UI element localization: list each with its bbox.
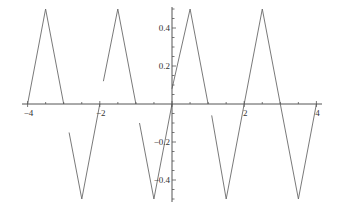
chart: −4−224 −0.4−0.20.20.4	[0, 0, 337, 211]
y-tick-label: −0.4	[154, 175, 171, 185]
y-tick-label: −0.2	[154, 137, 170, 147]
curve-segment	[28, 9, 64, 104]
y-tick-label: 0.2	[159, 61, 170, 71]
curve-segment	[69, 104, 100, 199]
curve-segment	[244, 9, 280, 104]
x-tick-label: −2	[96, 108, 106, 118]
x-tick-label: −4	[24, 108, 34, 118]
plot-area: −4−224 −0.4−0.20.20.4	[0, 0, 337, 211]
x-tick-label: 2	[243, 108, 248, 118]
curve-segment	[212, 104, 245, 199]
curve-segment	[103, 9, 135, 104]
y-tick-label: 0.4	[159, 23, 171, 33]
x-tick-label: 4	[315, 108, 320, 118]
curve-segment	[172, 9, 208, 104]
curve-segment	[280, 104, 316, 199]
